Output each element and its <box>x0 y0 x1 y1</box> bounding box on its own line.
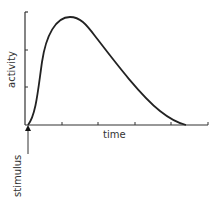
y-axis-label: activity <box>7 51 17 88</box>
activity-curve <box>28 17 186 125</box>
stimulus-arrow-icon <box>25 125 31 131</box>
x-axis-label: time <box>103 130 126 140</box>
stimulus-label: stimulus <box>13 155 23 197</box>
response-curve-chart <box>0 0 216 208</box>
